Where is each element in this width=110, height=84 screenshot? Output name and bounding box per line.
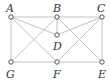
vertex-label-g: G [6,68,15,81]
graph-diagram: ABCDGFE [0,0,110,84]
edge-c-d [57,17,102,35]
vertex-f [55,60,59,64]
vertex-d [55,33,59,37]
vertex-label-e: E [97,68,106,81]
vertex-label-c: C [97,2,106,15]
vertex-label-b: B [52,2,61,15]
vertex-label-d: D [52,40,62,53]
vertex-e [100,60,104,64]
vertex-g [9,60,13,64]
edge-a-d [11,17,57,35]
vertex-a [9,15,13,19]
vertex-b [55,15,59,19]
vertex-c [100,15,104,19]
labels-group: ABCDGFE [5,2,106,81]
vertex-label-f: F [52,68,61,81]
vertex-label-a: A [5,2,14,15]
